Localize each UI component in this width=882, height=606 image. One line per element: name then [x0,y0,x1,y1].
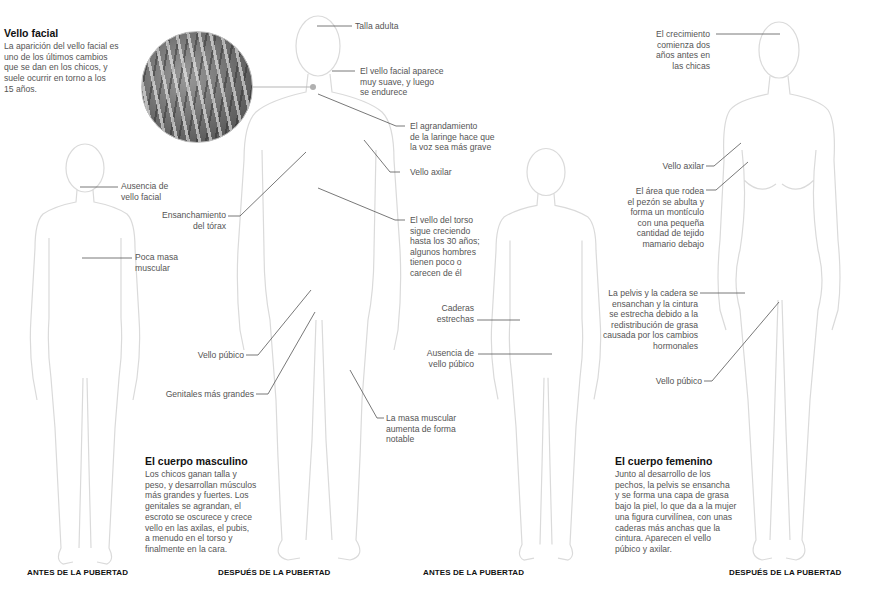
label-torso-hair: El vello del torso sigue creciendo hasta… [410,215,480,279]
label-larynx: El agrandamiento de la laringe hace que … [410,121,495,153]
label-chest-widening: Ensanchamiento del tórax [150,210,226,231]
label-armpit-hair-male: Vello axilar [410,167,452,178]
female-body-title: El cuerpo femenino [615,455,712,467]
male-body-text: Los chicos ganan talla y peso, y desarro… [145,469,256,555]
caption-girl-before: ANTES DE LA PUBERTAD [423,568,524,577]
label-muscle-mass: La masa muscular aumenta de forma notabl… [386,413,456,445]
label-narrow-hips: Caderas estrechas [420,303,474,324]
facial-hair-title: Vello facial [4,27,58,39]
label-growth-earlier: El crecimiento comienza dos años antes e… [630,29,710,71]
label-armpit-hair-female: Vello axilar [630,161,704,172]
label-adult-height: Talla adulta [355,21,398,32]
label-pubic-hair-male: Vello púbico [160,350,244,361]
label-pubic-hair-female: Vello púbico [630,376,702,387]
label-pelvis: La pelvis y la cadera se ensanchan y la … [596,288,698,352]
facial-hair-text: La aparición del vello facial es uno de … [4,41,119,95]
female-body-text: Junto al desarrollo de los pechos, la pe… [615,469,736,555]
chin-marker-dot [310,84,316,90]
label-no-pubic-hair: Ausencia de vello púbico [410,348,474,369]
caption-boy-before: ANTES DE LA PUBERTAD [27,568,128,577]
label-genitals: Genitales más grandes [140,389,254,400]
figure-boy-before [30,144,139,564]
label-no-facial-hair: Ausencia de vello facial [121,181,168,202]
label-facial-hair: El vello facial aparece muy suave, y lue… [360,66,444,98]
caption-girl-after: DESPUÉS DE LA PUBERTAD [729,568,841,577]
label-little-muscle: Poca masa muscular [135,252,178,273]
facial-hair-microscope-image [141,31,253,143]
male-body-title: El cuerpo masculino [145,455,248,467]
caption-boy-after: DESPUÉS DE LA PUBERTAD [218,568,330,577]
label-breast: El área que rodea el pezón se abulta y f… [610,186,704,250]
